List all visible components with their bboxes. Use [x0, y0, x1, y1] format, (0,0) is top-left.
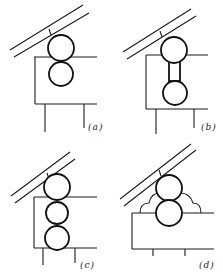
- circle-bottom: [45, 226, 69, 250]
- panel-a: [10, 5, 97, 132]
- panel-label-b: (b): [201, 122, 217, 132]
- circle-upper: [48, 35, 74, 61]
- circle-upper: [161, 37, 187, 63]
- panel-d: [120, 144, 214, 256]
- circle-upper: [156, 175, 182, 201]
- tie-mark: [49, 29, 51, 35]
- circle-lower: [49, 62, 73, 86]
- circle-lower: [156, 200, 182, 226]
- panel-label-d: (d): [199, 260, 215, 270]
- fillet-right: [180, 193, 201, 213]
- panel-b: [123, 9, 208, 134]
- circle-lower: [163, 81, 187, 105]
- circle-top: [44, 174, 70, 200]
- circle-middle: [46, 202, 68, 224]
- panel-c: [11, 152, 97, 265]
- panel-label-a: (a): [88, 122, 103, 132]
- tie-mark: [159, 170, 161, 176]
- tie-mark: [160, 31, 162, 37]
- panel-label-c: (c): [80, 260, 95, 270]
- diagram-canvas: [0, 0, 223, 275]
